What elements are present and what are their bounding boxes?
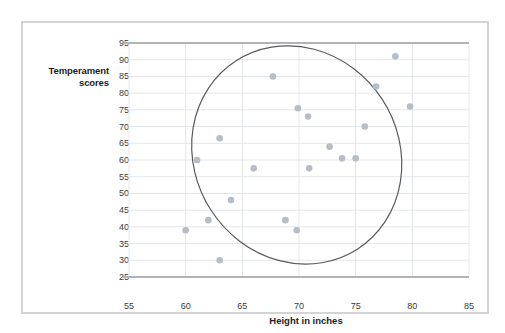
data-point: [293, 227, 300, 234]
data-point: [282, 217, 289, 224]
data-points: [182, 53, 413, 264]
data-point: [339, 155, 346, 162]
data-point: [228, 197, 235, 204]
data-point: [352, 155, 359, 162]
data-point: [216, 135, 223, 142]
data-point: [250, 165, 257, 172]
scatter-plot-svg: [23, 23, 491, 316]
data-point: [326, 143, 333, 150]
correlation-ellipse: [150, 23, 443, 304]
figure-frame: Temperament scores 253035404550556065707…: [21, 21, 489, 314]
data-point: [205, 217, 212, 224]
x-axis-title: Height in inches: [126, 315, 486, 326]
data-point: [270, 73, 277, 80]
data-point: [306, 165, 313, 172]
data-point: [392, 53, 399, 60]
data-point: [373, 83, 380, 90]
data-point: [407, 103, 414, 110]
plot-area: Temperament scores 253035404550556065707…: [23, 23, 487, 312]
data-point: [305, 113, 312, 120]
data-point: [295, 105, 302, 112]
data-point: [361, 123, 368, 130]
data-point: [216, 257, 223, 264]
data-point: [194, 157, 201, 164]
data-point: [182, 227, 189, 234]
